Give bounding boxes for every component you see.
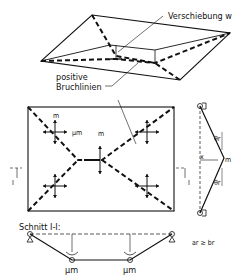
moment-label-top-left: m: [53, 111, 59, 121]
condition-label: ar ≥ br: [192, 238, 214, 248]
x-label: x: [200, 152, 204, 162]
positive-yield-lines-label-2: Bruchlinien: [56, 82, 102, 92]
support-mu-m-left: µm: [65, 265, 78, 275]
yield-line-diagram: [0, 0, 242, 277]
displacement-label: Verschiebung w: [168, 11, 232, 21]
side-moment-label: m: [225, 155, 231, 165]
section-title: Schnitt I-I:: [19, 222, 60, 232]
positive-yield-lines-label: positive: [56, 72, 88, 82]
section-i-i: [27, 232, 175, 263]
section-mark-left: I: [12, 178, 14, 188]
mu-m-label: µm: [72, 128, 82, 138]
plate-plan-view: [10, 100, 186, 211]
support-mu-m-right: µm: [123, 265, 136, 275]
section-mark-right: I: [188, 178, 190, 188]
theta-bottom-label: θr: [214, 178, 220, 188]
theta-top-label: θr: [214, 134, 220, 144]
moment-label-center: m: [98, 129, 104, 139]
